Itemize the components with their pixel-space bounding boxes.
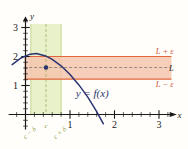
limit-level-label: L: [168, 63, 174, 73]
curve-label: y = f(x): [75, 87, 109, 100]
delta-left-label: c − δ: [21, 125, 38, 141]
axis-tick-label: 1: [13, 80, 18, 91]
x-axis-arrowhead: [170, 112, 177, 117]
delta-right-label: c + δ: [52, 125, 69, 141]
axis-tick-label: 2: [112, 119, 117, 130]
epsilon-delta-limit-figure: 123123 x y L + ε L L − ε y = f(x) c − δ …: [0, 0, 188, 149]
epsilon-upper-label: L + ε: [155, 46, 175, 56]
epsilon-lower-label: L − ε: [155, 79, 175, 89]
graph-canvas: 123123 x y L + ε L L − ε y = f(x) c − δ …: [0, 0, 188, 149]
axis-tick-label: 3: [13, 22, 18, 33]
axis-tick-label: 1: [68, 119, 73, 130]
axis-tick-label: 2: [13, 51, 18, 62]
y-axis-arrowhead: [23, 16, 28, 21]
x-axis-label: x: [176, 110, 181, 120]
delta-center-label: c: [44, 122, 48, 130]
axis-tick-label: 3: [157, 119, 162, 130]
y-axis-label: y: [29, 11, 34, 21]
limit-point-marker: [44, 65, 49, 70]
